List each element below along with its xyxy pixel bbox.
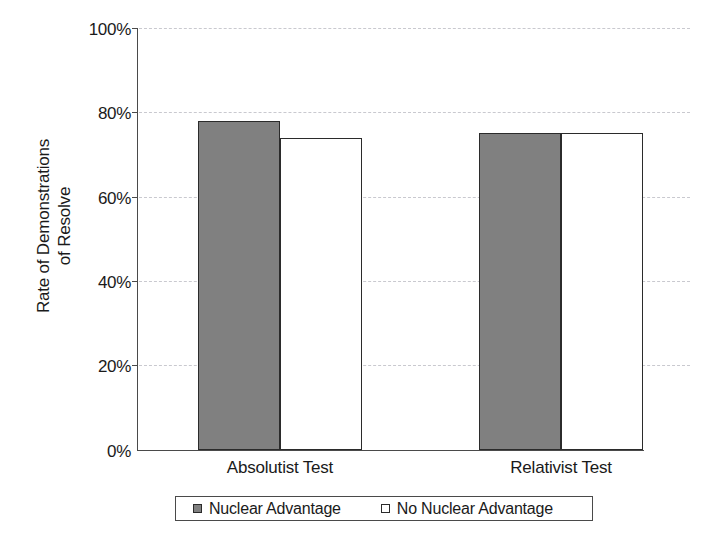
legend-entry-nuclear-advantage: Nuclear Advantage bbox=[193, 501, 341, 517]
bar-chart: Rate of Demonstrations of Resolve 100% 8… bbox=[0, 0, 721, 549]
bar-relativist-no-nuclear-advantage bbox=[561, 133, 643, 450]
legend-swatch-filled-square-icon bbox=[193, 504, 202, 513]
bar-relativist-nuclear-advantage bbox=[479, 133, 561, 450]
x-category-label-relativist: Relativist Test bbox=[479, 458, 643, 478]
legend-entry-no-nuclear-advantage: No Nuclear Advantage bbox=[381, 501, 553, 517]
legend-label-no-nuclear-advantage: No Nuclear Advantage bbox=[397, 501, 553, 517]
chart-legend: Nuclear Advantage No Nuclear Advantage bbox=[175, 496, 593, 521]
legend-swatch-hollow-square-icon bbox=[381, 504, 390, 513]
legend-label-nuclear-advantage: Nuclear Advantage bbox=[209, 501, 341, 517]
bar-absolutist-nuclear-advantage bbox=[198, 121, 280, 450]
bar-absolutist-no-nuclear-advantage bbox=[280, 138, 362, 450]
x-category-label-absolutist: Absolutist Test bbox=[198, 458, 362, 478]
